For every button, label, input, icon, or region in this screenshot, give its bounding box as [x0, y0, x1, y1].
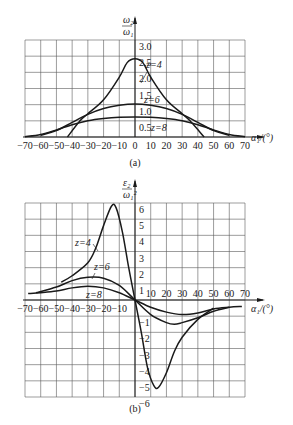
chart-panel-a: ω₂ω₁α₁/(°)−70−60−50−40−30−20−10010203040… — [17, 14, 274, 169]
svg-text:−10: −10 — [111, 303, 127, 314]
svg-text:30: 30 — [177, 140, 187, 151]
y-axis-label-denominator: ω₁ — [123, 26, 134, 37]
y-tick-labels: 0.51.01.52.02.53.0 — [139, 41, 152, 133]
x-tick-labels: −70−60−50−40−30−20−10010203040506070 — [17, 140, 250, 151]
x-axis-label: α₁/(°) — [251, 132, 274, 144]
svg-text:40: 40 — [193, 140, 203, 151]
y-axis-arrow-icon — [133, 16, 137, 24]
svg-text:0.5: 0.5 — [139, 122, 152, 133]
y-axis-arrow-icon — [133, 179, 137, 187]
svg-text:3: 3 — [139, 253, 144, 264]
svg-text:20: 20 — [161, 140, 171, 151]
svg-text:0: 0 — [133, 140, 138, 151]
svg-text:5: 5 — [139, 220, 144, 231]
svg-text:70: 70 — [240, 140, 250, 151]
svg-text:60: 60 — [224, 288, 234, 299]
svg-text:70: 70 — [240, 288, 250, 299]
svg-text:−5: −5 — [139, 382, 150, 393]
svg-text:−2: −2 — [139, 333, 150, 344]
svg-text:−40: −40 — [64, 140, 80, 151]
y-axis-label-denominator: ω₁² — [123, 189, 138, 200]
svg-text:1: 1 — [139, 285, 144, 296]
panel-caption: (b) — [129, 403, 141, 415]
svg-text:−70: −70 — [17, 303, 33, 314]
svg-text:−20: −20 — [96, 140, 112, 151]
x-axis-label: α₁/(°) — [251, 303, 274, 315]
svg-text:−60: −60 — [33, 140, 49, 151]
svg-text:60: 60 — [224, 140, 234, 151]
svg-text:6: 6 — [139, 204, 144, 215]
svg-text:1.0: 1.0 — [139, 106, 152, 117]
y-axis-label-numerator: ε₂ — [123, 177, 131, 188]
svg-text:50: 50 — [209, 288, 219, 299]
series-label-z-8: z=8 — [85, 289, 102, 300]
svg-text:−10: −10 — [111, 140, 127, 151]
series-line-z-4 — [61, 204, 213, 388]
svg-text:−40: −40 — [64, 303, 80, 314]
y-axis-label-numerator: ω₂ — [123, 14, 134, 25]
svg-text:4: 4 — [139, 236, 144, 247]
svg-text:−30: −30 — [80, 140, 96, 151]
svg-text:−70: −70 — [17, 140, 33, 151]
svg-text:10: 10 — [146, 288, 156, 299]
svg-text:−30: −30 — [80, 303, 96, 314]
chart-figure: ω₂ω₁α₁/(°)−70−60−50−40−30−20−10010203040… — [0, 0, 293, 425]
series-label-z-4: z=4 — [145, 59, 162, 70]
series-label-z-6: z=6 — [143, 94, 160, 105]
series-label-z-8: z=8 — [150, 122, 167, 133]
svg-text:−50: −50 — [49, 303, 65, 314]
svg-text:20: 20 — [161, 288, 171, 299]
series-label-z-6: z=6 — [93, 261, 110, 272]
svg-text:3.0: 3.0 — [139, 41, 152, 52]
svg-text:50: 50 — [209, 140, 219, 151]
svg-text:40: 40 — [193, 288, 203, 299]
x-axis-arrow-icon — [257, 298, 265, 302]
svg-text:−20: −20 — [96, 303, 112, 314]
chart-panel-b: ε₂ω₁²α₁/(°)−70−60−50−40−30−20−1010203040… — [17, 177, 274, 415]
svg-text:30: 30 — [177, 288, 187, 299]
svg-text:10: 10 — [146, 140, 156, 151]
svg-text:−50: −50 — [49, 140, 65, 151]
svg-text:−60: −60 — [33, 303, 49, 314]
svg-text:2: 2 — [139, 269, 144, 280]
series-label-z-4: z=4 — [74, 237, 91, 248]
panel-caption: (a) — [129, 157, 140, 169]
